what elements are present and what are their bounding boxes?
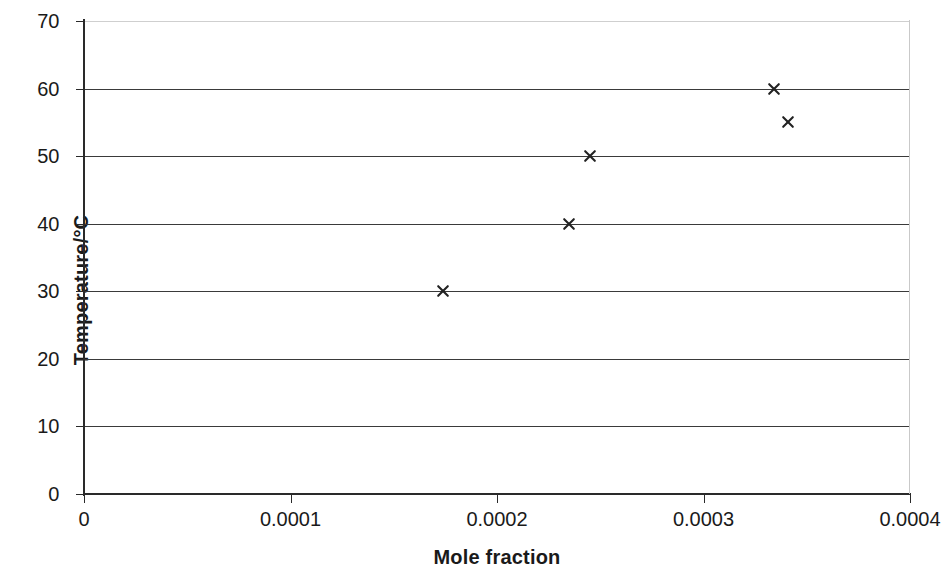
y-tick-label-60: 60 (37, 77, 59, 100)
x-tick-label-0.0002: 0.0002 (466, 508, 527, 531)
x-tick-label-0.0003: 0.0003 (673, 508, 734, 531)
gridline-y-40 (84, 224, 910, 225)
y-tick-label-0: 0 (48, 483, 59, 506)
data-point-marker (435, 283, 451, 299)
plot-right-border (909, 20, 910, 494)
gridline-y-30 (84, 291, 910, 292)
scatter-chart: Temperature/°C 01020304050607000.00010.0… (0, 0, 944, 579)
x-tick-label-0: 0 (78, 508, 89, 531)
y-tick-label-40: 40 (37, 212, 59, 235)
y-tick-label-50: 50 (37, 145, 59, 168)
x-tick-mark (704, 494, 705, 503)
data-point-marker (582, 148, 598, 164)
data-point-marker (766, 81, 782, 97)
x-tick-label-0.0004: 0.0004 (879, 508, 940, 531)
x-axis-title: Mole fraction (84, 546, 910, 569)
y-tick-label-70: 70 (37, 10, 59, 33)
y-tick-label-10: 10 (37, 415, 59, 438)
x-tick-mark (291, 494, 292, 503)
gridline-y-60 (84, 89, 910, 90)
x-axis-line (84, 493, 911, 495)
x-tick-mark (497, 494, 498, 503)
gridline-y-10 (84, 426, 910, 427)
gridline-y-50 (84, 156, 910, 157)
y-tick-label-20: 20 (37, 347, 59, 370)
gridline-y-70 (84, 21, 910, 22)
y-axis-line (83, 19, 85, 496)
data-point-marker (561, 216, 577, 232)
x-tick-mark (910, 494, 911, 503)
y-tick-label-30: 30 (37, 280, 59, 303)
data-point-marker (780, 114, 796, 130)
plot-area: 01020304050607000.00010.00020.00030.0004 (84, 21, 910, 494)
gridline-y-20 (84, 359, 910, 360)
x-tick-label-0.0001: 0.0001 (260, 508, 321, 531)
